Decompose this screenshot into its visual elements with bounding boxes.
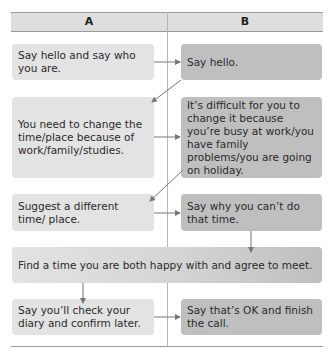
arrow-diagonal-icon xyxy=(150,170,183,201)
arrow-diagonal-icon xyxy=(152,80,181,102)
flow-arrows xyxy=(0,0,336,353)
